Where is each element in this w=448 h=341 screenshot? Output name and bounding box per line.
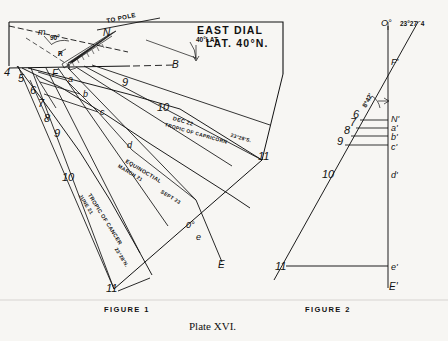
point-e: e — [196, 232, 201, 242]
fig2-bottom-E: E' — [389, 281, 399, 292]
fig2-node-f: F' — [391, 57, 398, 67]
fig2-hour-10: 10 — [322, 168, 335, 180]
plate-svg: EAST DIAL LAT. 40°N. TO POLE N F m 90° R… — [0, 0, 448, 341]
decl-equinoctial-zero: 0° — [186, 220, 195, 230]
node-f-label: F — [52, 68, 59, 79]
hour-4: 4 — [4, 66, 10, 78]
hour-5: 5 — [18, 72, 25, 84]
figure-1-caption: FIGURE 1 — [104, 305, 150, 314]
angle-lat-label: 40°LAT. — [196, 36, 219, 43]
fig2-point-c: c' — [391, 142, 398, 152]
fig2-point-b: b' — [391, 132, 398, 142]
plate-xvi-figure: EAST DIAL LAT. 40°N. TO POLE N F m 90° R… — [0, 0, 448, 341]
hour-10: 10 — [62, 171, 75, 183]
figure-2-caption: FIGURE 2 — [305, 305, 351, 314]
plate-caption: Plate XVI. — [189, 320, 236, 332]
hour-7: 7 — [38, 97, 45, 109]
hour-right-9: 9 — [122, 76, 128, 88]
point-a: a — [68, 74, 73, 84]
fig2-hour-7: 7 — [350, 116, 357, 128]
fig2-point-d: d' — [391, 170, 398, 180]
baseline-b-label: B — [172, 59, 179, 70]
fig2-hour-9: 9 — [337, 135, 343, 147]
hour-8: 8 — [44, 112, 51, 124]
fig2-point-e: e' — [391, 262, 398, 272]
point-c: c — [100, 107, 105, 117]
hour-6: 6 — [30, 84, 37, 96]
fig1-title-line1: EAST DIAL — [197, 24, 263, 36]
fig2-top-angle-label: 23°27'´4 — [400, 20, 425, 27]
hour-right-10: 10 — [157, 101, 170, 113]
node-m-label: m — [38, 27, 46, 37]
hour-11: 11 — [106, 282, 117, 294]
hour-9: 9 — [54, 127, 60, 139]
fig2-zero-label: O° — [381, 18, 392, 28]
point-E-end: E — [218, 259, 225, 270]
fig2-hour-8: 8 — [344, 124, 351, 136]
hour-right-11: 11 — [258, 150, 269, 162]
point-b: b — [83, 89, 88, 99]
angle-r-label: R — [58, 50, 63, 57]
node-n-label: N — [103, 27, 111, 38]
angle-90-label: 90° — [50, 34, 60, 41]
fig2-hour-11: 11 — [275, 260, 286, 272]
